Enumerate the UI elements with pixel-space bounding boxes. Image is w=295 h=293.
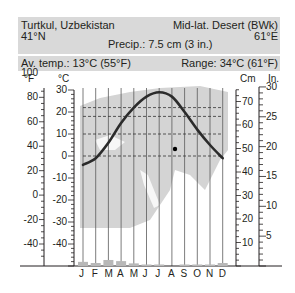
month-label: D — [219, 268, 226, 280]
c-tick-label: 30 — [56, 84, 67, 96]
month-label: M — [104, 268, 112, 280]
cm-tick-label: 30 — [242, 190, 253, 202]
month-label: J — [155, 268, 160, 280]
month-label: O — [193, 268, 201, 280]
c-tick-label: -30 — [53, 216, 67, 228]
in-tick-label: 5 — [266, 230, 272, 242]
f-tick-label: 100 — [21, 67, 38, 79]
f-tick-label: 40 — [27, 140, 38, 152]
f-tick-label: 20 — [27, 165, 38, 177]
cm-tick-label: 60 — [242, 119, 253, 131]
month-label: J — [79, 268, 84, 280]
c-tick-label: 0 — [61, 150, 67, 162]
cm-tick-label: 20 — [242, 213, 253, 225]
month-label: M — [130, 268, 138, 280]
in-tick-label: 15 — [266, 170, 277, 182]
month-label: S — [181, 268, 188, 280]
c-tick-label: -40 — [53, 238, 67, 250]
f-tick-label: -40 — [24, 238, 38, 250]
in-tick-label: 20 — [266, 141, 277, 153]
month-label: J — [143, 268, 148, 280]
f-tick-label: -20 — [24, 214, 38, 226]
f-tick-label: 60 — [27, 116, 38, 128]
c-tick-label: -10 — [53, 172, 67, 184]
cm-tick-label: 50 — [242, 143, 253, 155]
c-tick-label: 20 — [56, 106, 67, 118]
c-tick-label: -20 — [53, 194, 67, 206]
in-tick-label: 30 — [266, 81, 277, 93]
month-label: A — [168, 268, 175, 280]
in-tick-label: 25 — [266, 111, 277, 123]
month-label: N — [206, 268, 213, 280]
cm-tick-label: 70 — [242, 96, 253, 108]
c-tick-label: 10 — [56, 128, 67, 140]
month-label: F — [92, 268, 98, 280]
in-tick-label: 10 — [266, 200, 277, 212]
cm-tick-label: 40 — [242, 166, 253, 178]
f-tick-label: 80 — [27, 91, 38, 103]
f-tick-label: 0 — [32, 189, 38, 201]
cm-tick-label: 10 — [242, 237, 253, 249]
month-label: A — [117, 268, 124, 280]
